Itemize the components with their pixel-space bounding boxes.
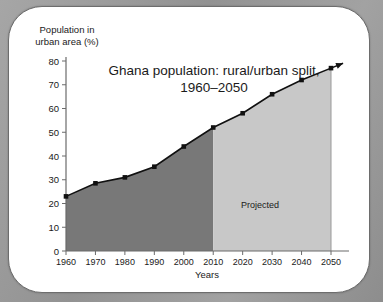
- y-axis-tick-label: 10: [48, 222, 59, 233]
- y-axis-tick-label: 80: [48, 56, 59, 67]
- data-point-marker: [270, 92, 275, 97]
- y-axis-tick-label: 30: [48, 174, 59, 185]
- y-axis-tick-label: 0: [54, 246, 59, 257]
- data-point-marker: [181, 144, 186, 149]
- x-axis: 1960197019801990200020102020203020402050: [56, 251, 341, 267]
- data-point-marker: [152, 164, 157, 169]
- x-axis-tick-label: 2040: [292, 257, 312, 267]
- population-area-chart: 01020304050607080 1960197019801990200020…: [9, 7, 369, 292]
- chart-title-line2: 1960–2050: [180, 80, 248, 95]
- historical-area-region: [66, 128, 213, 252]
- y-axis-tick-label: 40: [48, 151, 59, 162]
- data-point-marker: [93, 181, 98, 186]
- x-axis-tick-label: 2000: [174, 257, 194, 267]
- y-axis-label-line2: urban area (%): [35, 36, 98, 47]
- y-axis-tick-label: 20: [48, 198, 59, 209]
- x-axis-tick-label: 2050: [321, 257, 341, 267]
- x-axis-tick-label: 2030: [262, 257, 282, 267]
- x-axis-tick-label: 1970: [85, 257, 105, 267]
- data-point-marker: [240, 111, 245, 116]
- chart-title-line1: Ghana population: rural/urban split,: [109, 63, 320, 78]
- data-point-marker: [64, 194, 69, 199]
- x-axis-tick-label: 1960: [56, 257, 76, 267]
- x-axis-tick-label: 1980: [115, 257, 135, 267]
- y-axis-tick-label: 60: [48, 103, 59, 114]
- chart-card: 01020304050607080 1960197019801990200020…: [8, 6, 370, 293]
- data-point-marker: [299, 78, 304, 83]
- x-axis-tick-label: 2010: [203, 257, 223, 267]
- y-axis: 01020304050607080: [48, 56, 66, 257]
- data-point-marker: [211, 125, 216, 130]
- x-axis-tick-label: 1990: [144, 257, 164, 267]
- data-point-marker: [123, 175, 128, 180]
- projected-annotation: Projected: [241, 200, 279, 210]
- y-axis-tick-label: 70: [48, 79, 59, 90]
- x-axis-label: Years: [195, 269, 219, 280]
- x-axis-tick-label: 2020: [233, 257, 253, 267]
- y-axis-label-line1: Population in: [40, 24, 95, 35]
- y-axis-tick-label: 50: [48, 127, 59, 138]
